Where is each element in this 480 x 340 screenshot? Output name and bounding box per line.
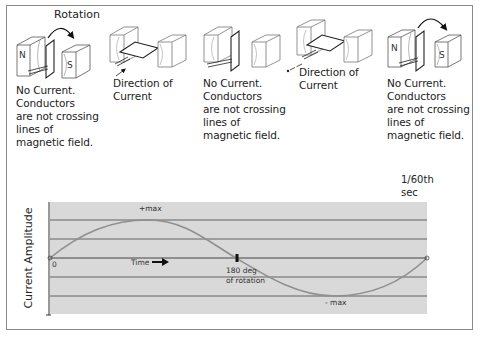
stage-5-caption: No Current. Conductors are not crossing … xyxy=(387,77,470,142)
stage-2-diagram xyxy=(110,27,186,76)
stage-3-diagram xyxy=(204,27,280,71)
plus-max-label: +max xyxy=(139,204,162,213)
period-label: 1/60th sec xyxy=(401,173,434,199)
stage-3-caption: No Current. Conductors are not crossing … xyxy=(203,77,286,142)
stage-2-caption: Direction of Current xyxy=(113,77,173,103)
y-axis-label: Current Amplitude xyxy=(22,207,35,308)
time-label: Time xyxy=(131,258,149,267)
stage-1-diagram xyxy=(17,28,90,78)
stage-4-diagram xyxy=(287,20,372,72)
midpoint-label: 180 deg of rotation xyxy=(226,266,265,286)
south-pole-label-5: S xyxy=(439,50,445,60)
stage-4-caption: Direction of Current xyxy=(299,66,359,92)
minus-max-label: - max xyxy=(325,298,346,307)
current-amplitude-graph xyxy=(46,202,429,315)
stage-1-caption: No Current. Conductors are not crossing … xyxy=(16,84,99,149)
south-pole-label-1: S xyxy=(67,60,73,70)
north-pole-label-1: N xyxy=(19,50,26,60)
rotation-label: Rotation xyxy=(54,8,100,21)
stage-5-diagram xyxy=(388,19,461,71)
origin-label: 0 xyxy=(52,260,57,269)
generator-illustration xyxy=(0,0,480,340)
north-pole-label-5: N xyxy=(391,43,398,53)
midpoint-marker xyxy=(236,254,239,262)
